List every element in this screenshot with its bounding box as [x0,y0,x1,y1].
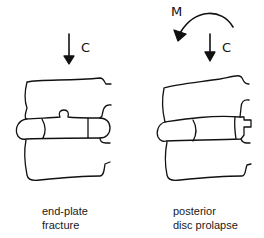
moment-label: M [171,4,182,19]
caption-line: posterior [173,204,238,218]
caption-line: fracture [42,218,88,232]
compression-arrow-icon [64,34,74,64]
lower-vertebra [166,139,252,180]
caption-end-plate-fracture: end-plate fracture [42,204,88,232]
intervertebral-disc [16,118,110,139]
spine-diagram: C M C [0,0,264,238]
endplate-fracture-notch [26,110,100,119]
panel-end-plate-fracture [16,34,111,180]
caption-line: end-plate [42,204,88,218]
caption-line: disc prolapse [173,218,238,232]
upper-vertebra [163,76,249,122]
moment-arrow-icon [174,13,233,41]
compression-label: C [222,40,231,55]
caption-posterior-disc-prolapse: posterior disc prolapse [173,204,238,232]
compression-arrow-icon [205,34,215,61]
compression-label: C [81,40,90,55]
panel-posterior-disc-prolapse [157,13,251,180]
lower-vertebra [25,138,110,180]
